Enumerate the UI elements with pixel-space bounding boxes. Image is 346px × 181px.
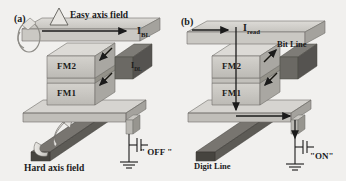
- transistor-state-label-b: "ON": [310, 152, 334, 161]
- digit-line-current-subscript-a: DL: [134, 66, 142, 72]
- digit-line-current-label-a: IDL: [131, 62, 142, 72]
- bit-line-current-label-a: IBL: [137, 26, 150, 39]
- easy-axis-field-label: Easy axis field: [70, 11, 128, 21]
- panel-b-tag: (b): [181, 17, 193, 27]
- hard-axis-field-label: Hard axis field: [24, 164, 84, 174]
- read-current-label: Iread: [243, 23, 260, 36]
- easy-axis-arrow-glyph: [50, 8, 68, 25]
- fm1-label-a: FM1: [57, 89, 76, 98]
- digit-line-label: Digit Line: [194, 162, 231, 171]
- panel-a-tag: (a): [14, 14, 26, 24]
- fm2-label-a: FM2: [57, 62, 76, 71]
- fm2-label-b: FM2: [222, 62, 241, 71]
- figure-artwork: [0, 0, 346, 181]
- bit-line-current-subscript-a: BL: [141, 31, 150, 38]
- fm1-label-b: FM1: [222, 89, 241, 98]
- read-current-subscript: read: [247, 28, 260, 35]
- transistor-state-label-a: " OFF ": [140, 148, 172, 157]
- side-slab-b: [280, 44, 317, 79]
- mram-cell-figure: (a) Easy axis field IBL IDL FM2 FM1 Hard…: [0, 0, 346, 181]
- bit-line-label: Bit Line: [277, 40, 307, 49]
